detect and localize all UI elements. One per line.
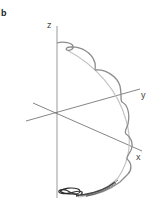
x-axis xyxy=(33,103,142,151)
trajectory-plot xyxy=(0,0,153,211)
guide-arc xyxy=(67,50,129,197)
y-axis xyxy=(26,89,140,121)
